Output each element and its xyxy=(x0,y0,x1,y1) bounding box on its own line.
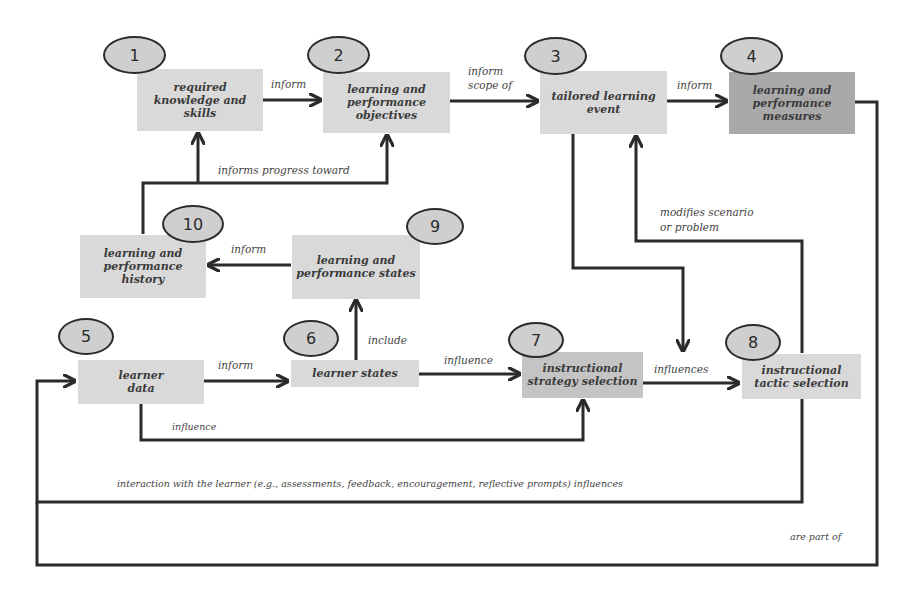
node-number-badge-8: 8 xyxy=(725,324,781,361)
edge-label-3-4: inform xyxy=(677,79,712,92)
edge-label-8-3: modifies scenario or problem xyxy=(660,205,754,235)
edge-label-informs-progress-toward: informs progress toward xyxy=(218,164,350,177)
badge-number: 7 xyxy=(531,331,541,350)
edge-label-5-6: inform xyxy=(218,359,253,372)
node-instructional-tactic-selection: instructional tactic selection xyxy=(742,354,861,399)
edge-label-are-part-of: are part of xyxy=(790,530,841,543)
node-label: learner states xyxy=(312,367,397,380)
edge-label-6-9: include xyxy=(368,334,407,347)
node-learning-and-performance-measures: learning and performance measures xyxy=(729,72,855,134)
edge-label-5-7: influence xyxy=(172,420,216,433)
node-label: learning and performance measures xyxy=(733,84,851,123)
node-instructional-strategy-selection: instructional strategy selection xyxy=(522,352,643,398)
edge-label-1-2: inform xyxy=(271,78,306,91)
badge-number: 5 xyxy=(81,327,91,346)
node-number-badge-1: 1 xyxy=(103,36,166,74)
edge-label-9-10: inform xyxy=(231,243,266,256)
badge-number: 10 xyxy=(183,215,203,234)
badge-number: 8 xyxy=(748,333,758,352)
badge-number: 1 xyxy=(129,46,139,65)
badge-number: 9 xyxy=(430,217,440,236)
edge-label-line: or problem xyxy=(660,220,754,235)
node-learning-and-performance-states: learning and performance states xyxy=(292,235,420,299)
node-number-badge-9: 9 xyxy=(406,208,464,245)
node-number-badge-4: 4 xyxy=(720,37,783,75)
node-learning-and-performance-objectives: learning and performance objectives xyxy=(323,72,450,133)
edge-label-line: inform xyxy=(468,64,512,78)
node-learner-states: learner states xyxy=(291,360,419,387)
node-label: learning and performance history xyxy=(84,247,202,286)
node-required-knowledge-and-skills: required knowledge and skills xyxy=(137,69,263,131)
node-label: learner data xyxy=(111,369,171,395)
node-number-badge-10: 10 xyxy=(162,205,224,243)
edge-label-6-7: influence xyxy=(444,354,493,367)
node-number-badge-6: 6 xyxy=(283,320,339,357)
node-number-badge-2: 2 xyxy=(307,36,370,74)
node-label: required knowledge and skills xyxy=(141,81,259,120)
edge-label-7-8: influences xyxy=(654,363,708,376)
node-label: tailored learning event xyxy=(544,90,663,116)
node-number-badge-3: 3 xyxy=(524,37,587,75)
node-label: learning and performance objectives xyxy=(327,83,446,122)
badge-number: 6 xyxy=(306,329,316,348)
edge-label-line: modifies scenario xyxy=(660,205,754,220)
edge-label-interaction: interaction with the learner (e.g., asse… xyxy=(117,477,623,490)
edge-label-line: scope of xyxy=(468,78,512,92)
edge-label-2-3: inform scope of xyxy=(468,64,512,92)
node-label: instructional strategy selection xyxy=(526,362,639,388)
node-number-badge-7: 7 xyxy=(508,322,564,358)
diagram-canvas: required knowledge and skills learning a… xyxy=(0,0,908,597)
badge-number: 2 xyxy=(333,46,343,65)
badge-number: 3 xyxy=(550,47,560,66)
node-number-badge-5: 5 xyxy=(58,318,114,355)
badge-number: 4 xyxy=(746,47,756,66)
node-label: learning and performance states xyxy=(296,254,416,280)
node-learning-and-performance-history: learning and performance history xyxy=(80,235,206,298)
node-label: instructional tactic selection xyxy=(746,364,857,390)
node-learner-data: learner data xyxy=(78,360,204,404)
node-tailored-learning-event: tailored learning event xyxy=(540,71,667,134)
